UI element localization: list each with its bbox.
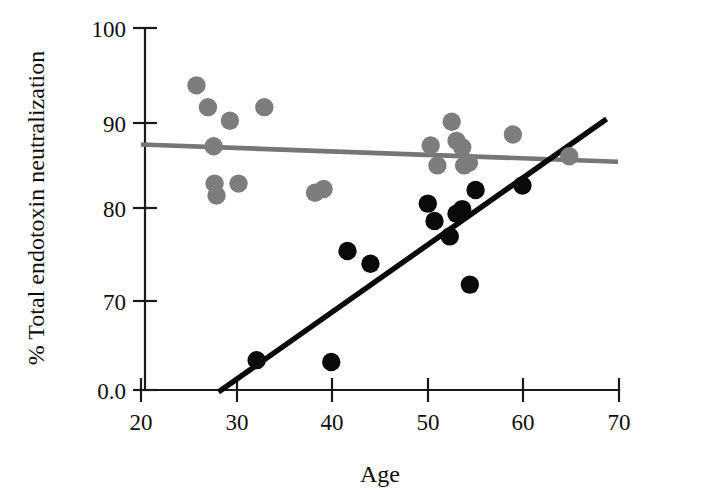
data-point <box>560 147 578 165</box>
data-point <box>453 200 471 218</box>
data-point <box>461 275 479 293</box>
data-point <box>361 254 379 272</box>
x-ticks-group: 20 30 40 50 60 70 <box>130 378 631 435</box>
data-point <box>314 180 332 198</box>
data-point <box>247 351 265 369</box>
x-tick-label-30: 30 <box>226 410 249 435</box>
y-tick-label-100: 100 <box>92 17 127 42</box>
trendlines-layer <box>141 119 618 392</box>
x-tick-label-60: 60 <box>512 410 535 435</box>
x-axis-title: Age <box>360 461 400 487</box>
data-point <box>338 242 356 260</box>
data-point <box>322 353 340 371</box>
data-point <box>207 186 225 204</box>
data-point <box>221 112 239 130</box>
data-point <box>187 76 205 94</box>
x-tick-label-20: 20 <box>130 410 153 435</box>
data-point <box>204 137 222 155</box>
data-point <box>443 113 461 131</box>
data-point <box>421 136 439 154</box>
data-point <box>513 176 531 194</box>
data-point <box>419 194 437 212</box>
data-point <box>504 125 522 143</box>
y-axis-title: % Total endotoxin neutralization <box>23 51 49 365</box>
y-tick-label-80: 80 <box>103 197 126 222</box>
scatter-plot-svg: 100 90 80 70 0.0 20 30 40 50 60 70 Age %… <box>0 0 717 502</box>
data-point <box>229 174 247 192</box>
y-tick-label-90: 90 <box>103 112 126 137</box>
chart-figure: 100 90 80 70 0.0 20 30 40 50 60 70 Age %… <box>0 0 717 502</box>
x-tick-label-70: 70 <box>608 410 631 435</box>
data-point <box>425 212 443 230</box>
data-point <box>466 181 484 199</box>
y-tick-label-70: 70 <box>103 290 126 315</box>
data-point <box>428 156 446 174</box>
data-point <box>255 98 273 116</box>
y-tick-label-0: 0.0 <box>97 379 126 404</box>
data-points-layer <box>187 76 578 371</box>
x-tick-label-50: 50 <box>417 410 440 435</box>
x-tick-label-40: 40 <box>321 410 344 435</box>
y-ticks-group: 100 90 80 70 0.0 <box>92 17 158 404</box>
axes-group <box>141 28 619 390</box>
data-point <box>199 98 217 116</box>
data-point <box>460 153 478 171</box>
black-trendline <box>218 119 606 392</box>
data-point <box>441 227 459 245</box>
